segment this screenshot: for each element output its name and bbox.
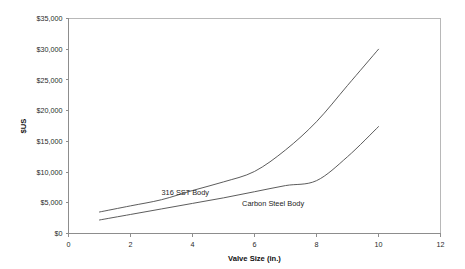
series-curve-0 <box>100 49 379 212</box>
series-label-1: Carbon Steel Body <box>242 199 304 208</box>
x-tick-label: 2 <box>129 240 133 249</box>
y-tick-label: $10,000 <box>37 168 63 177</box>
line-chart: $0$5,000$10,000$15,000$20,000$25,000$30,… <box>0 0 465 269</box>
x-tick-label: 4 <box>191 240 195 249</box>
y-tick-label: $0 <box>55 229 63 238</box>
x-tick-label: 10 <box>375 240 383 249</box>
y-axis-title: $US <box>19 119 28 134</box>
y-tick-label: $25,000 <box>37 76 63 85</box>
x-tick-label: 0 <box>67 240 71 249</box>
x-tick-label: 8 <box>315 240 319 249</box>
series-curve-1 <box>100 127 379 220</box>
y-tick-label: $30,000 <box>37 45 63 54</box>
y-tick-label: $20,000 <box>37 106 63 115</box>
y-tick-label: $5,000 <box>41 198 63 207</box>
series-label-0: 316 SST Body <box>162 188 210 197</box>
x-axis-title: Valve Size (in.) <box>228 254 281 263</box>
x-tick-label: 12 <box>437 240 445 249</box>
chart-container: $0$5,000$10,000$15,000$20,000$25,000$30,… <box>0 0 465 269</box>
y-tick-label: $15,000 <box>37 137 63 146</box>
y-tick-label: $35,000 <box>37 14 63 23</box>
x-tick-label: 6 <box>253 240 257 249</box>
